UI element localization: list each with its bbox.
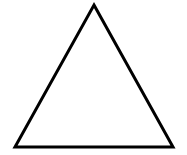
drawing-canvas [0,0,187,155]
canvas-background [0,0,187,155]
triangle-svg [0,0,187,155]
